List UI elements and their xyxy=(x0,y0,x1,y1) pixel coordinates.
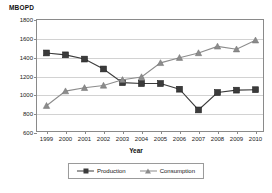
plot-area: 60080010001200140016001800 1999200020012… xyxy=(36,19,264,132)
x-axis-tick-label: 2010 xyxy=(249,136,262,142)
x-axis-tick-label: 2007 xyxy=(192,136,205,142)
data-point-square xyxy=(234,87,240,93)
y-axis-tick-label: 600 xyxy=(23,130,33,136)
x-axis-tick-label: 2009 xyxy=(230,136,243,142)
y-axis-unit-title: MBOPD xyxy=(9,4,34,11)
x-axis-tick-label: 2006 xyxy=(173,136,186,142)
data-point-square xyxy=(82,56,88,62)
plot-wrapper: 60080010001200140016001800 1999200020012… xyxy=(36,19,264,132)
series-layer xyxy=(37,20,265,133)
x-axis-tick-label: 2008 xyxy=(211,136,224,142)
y-axis-tick-label: 800 xyxy=(23,111,33,117)
data-point-square xyxy=(196,107,202,113)
x-axis-tick-label: 2002 xyxy=(97,136,110,142)
y-axis-tick-label: 1000 xyxy=(20,92,33,98)
data-point-triangle xyxy=(214,43,220,49)
y-axis-tick-mark xyxy=(34,133,37,134)
data-point-square xyxy=(215,90,221,96)
legend-label-production: Production xyxy=(97,168,126,174)
series-line xyxy=(47,40,256,105)
legend-item-production[interactable]: Production xyxy=(77,167,126,175)
x-axis-tick-label: 2005 xyxy=(154,136,167,142)
x-axis-tick-label: 2003 xyxy=(116,136,129,142)
series-line xyxy=(47,53,256,110)
y-axis-tick-label: 1600 xyxy=(20,36,33,42)
data-point-square xyxy=(139,81,145,87)
x-axis-title: Year xyxy=(0,147,272,154)
data-point-square xyxy=(158,81,164,87)
data-point-square xyxy=(44,50,50,56)
x-axis-tick-label: 2001 xyxy=(78,136,91,142)
x-axis-tick-label: 2004 xyxy=(135,136,148,142)
data-point-square xyxy=(101,66,107,72)
chart-container: MBOPD 60080010001200140016001800 1999200… xyxy=(0,0,272,193)
data-point-triangle xyxy=(252,37,258,43)
series-production xyxy=(44,50,259,113)
y-axis-tick-label: 1800 xyxy=(20,17,33,23)
x-axis-tick-label: 1999 xyxy=(40,136,53,142)
consumption-marker-icon xyxy=(140,167,157,175)
y-axis-tick-label: 1400 xyxy=(20,55,33,61)
data-point-square xyxy=(63,52,69,58)
y-axis-tick-label: 1200 xyxy=(20,74,33,80)
legend-item-consumption[interactable]: Consumption xyxy=(140,167,195,175)
data-point-square xyxy=(177,86,183,92)
data-point-square xyxy=(253,87,259,93)
production-marker-icon xyxy=(77,167,94,175)
legend-label-consumption: Consumption xyxy=(160,168,195,174)
series-consumption xyxy=(43,37,258,108)
x-axis-tick-label: 2000 xyxy=(59,136,72,142)
chart-legend: Production Consumption xyxy=(68,163,204,179)
